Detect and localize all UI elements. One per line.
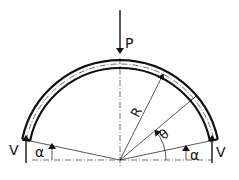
- reaction-v-right-label: V: [216, 144, 226, 160]
- radius-label: R: [128, 105, 145, 120]
- alpha-left-label: α: [35, 144, 44, 160]
- curved-beam-diagram: P V V R θ α α: [0, 0, 239, 180]
- theta-label: θ: [156, 126, 172, 143]
- reaction-v-left-label: V: [9, 142, 19, 158]
- alpha-right-label: α: [190, 147, 199, 163]
- arch-right-end: [210, 139, 218, 141]
- load-p-label: P: [125, 35, 133, 51]
